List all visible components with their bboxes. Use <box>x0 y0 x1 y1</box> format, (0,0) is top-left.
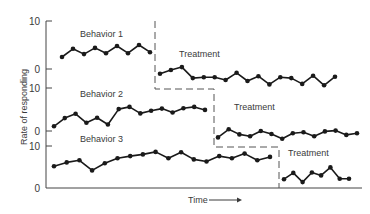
data-point <box>181 106 186 111</box>
treatment-1-label: Treatment <box>179 49 220 59</box>
data-point <box>256 74 261 79</box>
panel-2-ticks: 10 0 <box>29 83 52 137</box>
data-point <box>234 71 239 76</box>
data-point <box>248 134 253 139</box>
data-point <box>192 157 197 162</box>
data-point <box>138 111 143 116</box>
data-point <box>93 46 98 51</box>
data-point <box>245 79 250 84</box>
data-point <box>255 158 260 163</box>
treatment-2-label: Treatment <box>234 102 275 112</box>
time-arrow-icon <box>209 198 242 203</box>
data-point <box>237 132 242 137</box>
data-point <box>71 47 76 52</box>
data-point <box>268 155 273 160</box>
data-point <box>212 75 217 80</box>
data-point <box>280 136 285 141</box>
data-point <box>282 177 287 182</box>
data-point <box>137 43 142 48</box>
data-point <box>192 105 197 110</box>
tick-label: 0 <box>34 183 40 194</box>
data-point <box>322 83 327 88</box>
data-point <box>216 135 221 140</box>
data-point <box>84 121 89 126</box>
tick-label: 10 <box>29 83 41 94</box>
data-point <box>128 154 133 159</box>
tick-label: 10 <box>29 141 41 152</box>
data-point <box>301 130 306 135</box>
data-point <box>347 177 352 182</box>
data-point <box>160 106 165 111</box>
data-point <box>149 109 154 114</box>
data-point <box>291 131 296 136</box>
data-point <box>64 160 69 165</box>
treatment-3-label: Treatment <box>288 148 329 158</box>
data-point <box>104 51 109 56</box>
data-point <box>333 128 338 133</box>
data-point <box>355 131 360 136</box>
data-point <box>169 68 174 73</box>
panel-1-ticks: 10 0 <box>29 16 52 75</box>
panel-3-ticks: 10 0 <box>29 141 52 194</box>
behavior-1-label: Behavior 1 <box>80 29 123 39</box>
data-point <box>319 173 324 178</box>
data-point <box>333 74 338 79</box>
data-point <box>82 52 87 57</box>
series-layer <box>52 43 360 185</box>
behavior-1-baseline-series <box>60 43 153 60</box>
data-point <box>202 75 207 80</box>
x-axis-label: Time <box>188 195 208 205</box>
data-point <box>223 78 228 83</box>
multiple-baseline-chart: Rate of responding 10 0 10 0 10 0 Behavi… <box>0 0 370 214</box>
data-point <box>170 110 175 115</box>
data-point <box>148 50 153 55</box>
data-point <box>259 129 264 134</box>
behavior-3-label: Behavior 3 <box>80 134 123 144</box>
data-point <box>115 156 120 161</box>
behavior-2-treatment-series <box>216 127 360 141</box>
data-point <box>63 116 68 121</box>
data-point <box>116 107 121 112</box>
behavior-3-treatment-series <box>282 165 352 184</box>
data-point <box>166 156 171 161</box>
data-point <box>217 154 222 159</box>
data-point <box>291 171 296 176</box>
data-point <box>344 133 349 138</box>
data-point <box>289 76 294 81</box>
tick-label: 10 <box>29 16 41 27</box>
data-point <box>300 82 305 87</box>
data-point <box>204 159 209 164</box>
tick-label: 0 <box>34 126 40 137</box>
behavior-3-baseline-series-line <box>54 152 270 171</box>
data-point <box>230 156 235 161</box>
y-axis-label: Rate of responding <box>19 69 29 145</box>
data-point <box>127 105 132 110</box>
data-point <box>158 72 163 77</box>
data-point <box>267 82 272 87</box>
data-point <box>126 51 131 56</box>
data-point <box>73 112 78 117</box>
data-point <box>90 168 95 173</box>
behavior-2-label: Behavior 2 <box>80 89 123 99</box>
data-point <box>95 115 100 120</box>
data-point <box>323 129 328 134</box>
data-point <box>103 161 108 166</box>
data-point <box>203 108 208 113</box>
behavior-1-treatment-series <box>158 65 338 88</box>
data-point <box>312 134 317 139</box>
data-point <box>269 132 274 137</box>
data-point <box>226 127 231 132</box>
tick-label: 0 <box>34 64 40 75</box>
data-point <box>60 55 65 60</box>
data-point <box>311 73 316 78</box>
data-point <box>115 44 120 49</box>
data-point <box>191 76 196 81</box>
data-point <box>106 122 111 127</box>
behavior-2-baseline-series <box>52 105 208 129</box>
data-point <box>242 151 247 156</box>
data-point <box>180 65 185 70</box>
data-point <box>300 180 305 185</box>
data-point <box>77 158 82 163</box>
data-point <box>141 152 146 157</box>
data-point <box>153 150 158 155</box>
